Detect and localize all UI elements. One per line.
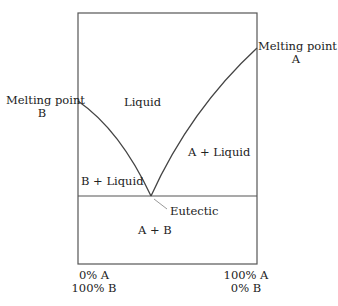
eutectic-label: Eutectic	[170, 205, 218, 218]
melting-point-b-line2: B	[6, 107, 78, 120]
x-axis-right-label: 100% A 0% B	[222, 269, 270, 295]
melting-point-a-label: Melting point A	[258, 40, 334, 66]
region-b-plus-liquid-label: B + Liquid	[81, 175, 144, 188]
phase-diagram: Melting point B Melting point A Liquid A…	[0, 0, 338, 306]
melting-point-a-line2: A	[258, 53, 334, 66]
liquidus-curve-a	[151, 48, 257, 196]
x-left-line2: 100% B	[70, 282, 118, 295]
eutectic-leader-line	[154, 199, 167, 209]
melting-point-b-label: Melting point B	[6, 94, 78, 120]
region-a-plus-liquid-label: A + Liquid	[188, 146, 250, 159]
region-liquid-label: Liquid	[124, 96, 161, 109]
x-right-line2: 0% B	[222, 282, 270, 295]
x-axis-left-label: 0% A 100% B	[70, 269, 118, 295]
region-a-plus-b-label: A + B	[138, 224, 172, 237]
